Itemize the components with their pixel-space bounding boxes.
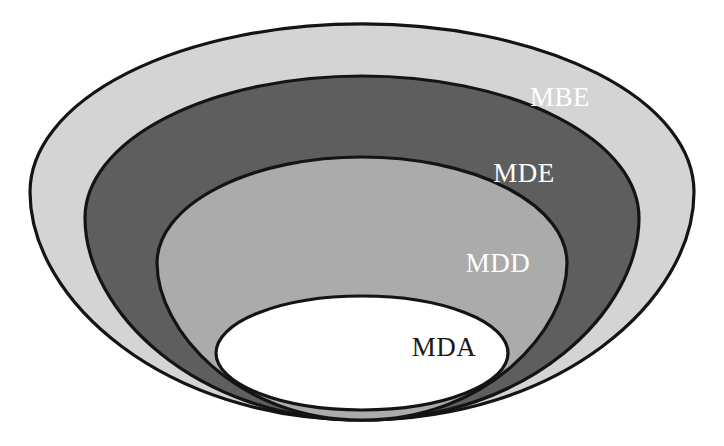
label-mdd: MDD: [466, 248, 531, 278]
onion-diagram: MBE MDE MDD MDA: [0, 0, 724, 446]
figure-root: MBE MDE MDD MDA: [0, 0, 724, 446]
label-mde: MDE: [493, 158, 555, 188]
label-mda: MDA: [412, 332, 477, 362]
label-mbe: MBE: [530, 82, 590, 112]
